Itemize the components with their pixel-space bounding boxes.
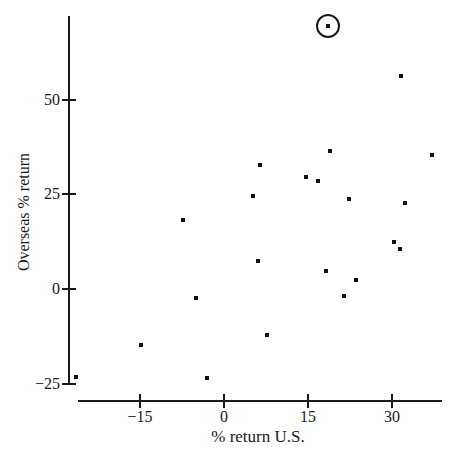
x-tick-mark xyxy=(391,394,393,408)
x-tick-mark xyxy=(223,394,225,408)
data-point-marker xyxy=(205,376,209,380)
data-point-marker xyxy=(403,201,407,205)
scatterplot-figure: Overseas % return % return U.S. −2502550… xyxy=(0,0,459,457)
outlier-circle-annotation xyxy=(316,14,340,38)
data-point-marker xyxy=(347,197,351,201)
data-point-marker xyxy=(251,194,255,198)
x-tick-label: 0 xyxy=(202,407,246,427)
data-point-marker xyxy=(74,375,78,379)
x-tick-label: 30 xyxy=(370,407,414,427)
y-tick-label: −25 xyxy=(18,374,60,394)
data-point-marker xyxy=(324,269,328,273)
y-tick-mark xyxy=(62,288,76,290)
data-point-marker xyxy=(354,278,358,282)
x-tick-mark xyxy=(307,394,309,408)
x-axis-title: % return U.S. xyxy=(158,427,358,447)
x-tick-label: −15 xyxy=(118,407,162,427)
data-point-marker xyxy=(256,259,260,263)
data-point-marker xyxy=(265,333,269,337)
data-point-marker xyxy=(258,163,262,167)
x-tick-mark xyxy=(139,394,141,408)
x-axis-line xyxy=(78,400,442,402)
data-point-marker xyxy=(194,296,198,300)
y-tick-label: 25 xyxy=(18,184,60,204)
data-point-marker xyxy=(316,179,320,183)
data-point-marker xyxy=(342,294,346,298)
data-point-marker xyxy=(392,240,396,244)
y-tick-label: 50 xyxy=(18,90,60,110)
data-point-marker xyxy=(181,218,185,222)
y-tick-mark xyxy=(62,99,76,101)
y-axis-line xyxy=(68,16,70,384)
data-point-marker xyxy=(304,175,308,179)
x-tick-label: 15 xyxy=(286,407,330,427)
y-tick-label: 0 xyxy=(18,279,60,299)
y-tick-mark xyxy=(62,193,76,195)
data-point-marker xyxy=(399,74,403,78)
data-point-marker xyxy=(328,149,332,153)
data-point-marker xyxy=(430,153,434,157)
y-tick-mark xyxy=(62,383,76,385)
data-point-marker xyxy=(398,247,402,251)
data-point-marker xyxy=(139,343,143,347)
